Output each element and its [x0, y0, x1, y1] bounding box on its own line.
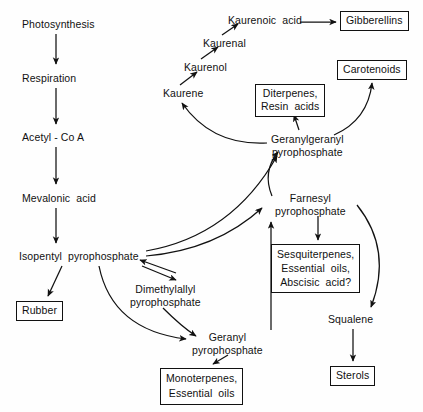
arrow-geranylgeranyl-to-diterpenes — [294, 115, 299, 130]
node-squalene: Squalene — [328, 313, 373, 326]
arrow-isopentyl-to-geranylgeranyl — [146, 156, 277, 251]
node-sterols: Sterols — [330, 366, 375, 386]
node-kaurene: Kaurene — [163, 87, 203, 100]
node-dimethylallyl-pyrophosphate: Dimethylallylpyrophosphate — [130, 283, 201, 308]
node-carotenoids: Carotenoids — [337, 60, 407, 80]
node-isopentyl-pyrophosphate: Isopentyl pyrophosphate — [19, 250, 139, 263]
node-geranyl-pyrophosphate: Geranylpyrophosphate — [192, 331, 263, 356]
node-acetyl-coa: Acetyl - Co A — [22, 131, 84, 144]
arrow-isopentyl-to-rubber — [48, 266, 62, 296]
node-kaurenoic-acid: Kaurenoic acid — [228, 14, 302, 27]
node-monoterpenes-essential-oils: Monoterpenes,Essential oils — [160, 368, 243, 405]
arrow-farnesyl-to-geranylgeranyl — [268, 152, 278, 196]
node-kaurenal: Kaurenal — [203, 37, 246, 50]
node-geranylgeranyl-pyrophosphate: Geranylgeranylpyrophosphate — [271, 133, 344, 158]
node-photosynthesis: Photosynthesis — [22, 18, 95, 31]
arrow-dimethylallyl-to-isopentyl — [140, 260, 176, 273]
node-kaurenol: Kaurenol — [184, 61, 227, 74]
node-gibberellins: Gibberellins — [340, 11, 409, 31]
node-sesquiterpenes-essential-oils-abscisic-acid: Sesquiterpenes,Essential oils,Abscisic a… — [271, 244, 360, 293]
arrow-geranylgeranyl-to-carotenoids — [334, 83, 372, 135]
arrow-geranyl-to-monoterpenes — [213, 355, 228, 364]
pathway-diagram: Photosynthesis Respiration Acetyl - Co A… — [0, 0, 423, 412]
node-mevalonic-acid: Mevalonic acid — [22, 192, 96, 205]
node-rubber: Rubber — [16, 301, 63, 321]
arrow-isopentyl-to-farnesyl — [146, 208, 262, 256]
node-respiration: Respiration — [22, 72, 76, 85]
node-diterpenes-resin-acids: Diterpenes,Resin acids — [255, 84, 325, 117]
node-farnesyl-pyrophosphate: Farnesylpyrophosphate — [275, 192, 346, 217]
arrow-isopentyl-to-dimethylallyl — [142, 266, 176, 280]
arrow-kaurene-to-kaurenol — [180, 72, 197, 85]
